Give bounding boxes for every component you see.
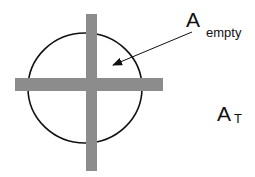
diagram-canvas: A empty A T [0, 0, 255, 177]
label-a-empty-main: A [186, 8, 200, 31]
label-a-total: A [217, 103, 231, 124]
label-a-empty-subscript: empty [206, 26, 241, 39]
vertical-bar [86, 14, 97, 171]
label-a-total-subscript: T [234, 112, 242, 125]
label-a-empty: A [186, 9, 200, 30]
label-a-total-main: A [217, 102, 231, 125]
